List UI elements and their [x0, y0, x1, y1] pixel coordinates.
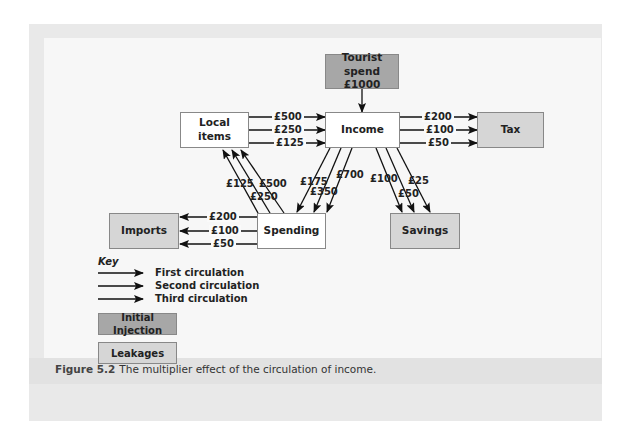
flow-label: £100 — [424, 124, 456, 135]
node-spending: Spending — [257, 213, 326, 249]
flow-label: £100 — [368, 173, 400, 184]
key-initial-injection-swatch: Initial Injection — [98, 313, 177, 335]
savings-label: Savings — [402, 224, 448, 238]
key-first-circulation: First circulation — [155, 267, 244, 278]
imports-label: Imports — [121, 224, 167, 238]
flow-label: £250 — [248, 191, 280, 202]
flow-label: £125 — [224, 178, 256, 189]
key-second-circulation: Second circulation — [155, 280, 259, 291]
tourist-spend-label: Tourist spend — [342, 51, 383, 77]
node-savings: Savings — [390, 213, 460, 249]
node-income: Income — [325, 112, 400, 148]
flow-label: £50 — [396, 188, 421, 199]
flow-label: £25 — [406, 175, 431, 186]
node-tourist-spend: Tourist spend£1000 — [325, 54, 399, 89]
flow-label: £350 — [308, 186, 340, 197]
income-label: Income — [341, 123, 384, 137]
key-initial-injection-label: Initial Injection — [99, 311, 176, 337]
flow-label: £125 — [274, 137, 306, 148]
flow-label: £175 — [298, 176, 330, 187]
node-tax: Tax — [477, 112, 544, 148]
flow-label: £200 — [422, 111, 454, 122]
local-items-label: Local items — [181, 116, 248, 143]
flow-label: £250 — [272, 124, 304, 135]
flow-label: £100 — [209, 225, 241, 236]
node-imports: Imports — [109, 213, 179, 249]
figure-number: Figure 5.2 — [55, 363, 115, 375]
spending-label: Spending — [264, 224, 320, 238]
tourist-spend-amount: £1000 — [344, 78, 381, 90]
key-leakages-label: Leakages — [111, 347, 164, 360]
flow-label: £700 — [334, 169, 366, 180]
flow-label: £50 — [426, 137, 451, 148]
flow-label: £500 — [272, 111, 304, 122]
flow-label: £200 — [207, 211, 239, 222]
caption-text: The multiplier effect of the circulation… — [119, 363, 376, 375]
key-title: Key — [98, 256, 119, 267]
key-third-circulation: Third circulation — [155, 293, 248, 304]
key-leakages-swatch: Leakages — [98, 342, 177, 364]
flow-label: £50 — [211, 238, 236, 249]
node-local-items: Local items — [180, 112, 249, 148]
flow-label: £500 — [257, 178, 289, 189]
figure-caption: Figure 5.2The multiplier effect of the c… — [55, 363, 376, 375]
tax-label: Tax — [501, 123, 521, 137]
